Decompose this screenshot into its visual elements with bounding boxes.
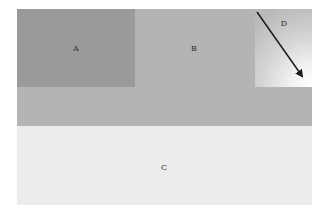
label-a: A <box>73 44 79 53</box>
label-c: C <box>161 163 167 172</box>
label-d: D <box>281 19 287 28</box>
label-b: B <box>191 44 197 53</box>
